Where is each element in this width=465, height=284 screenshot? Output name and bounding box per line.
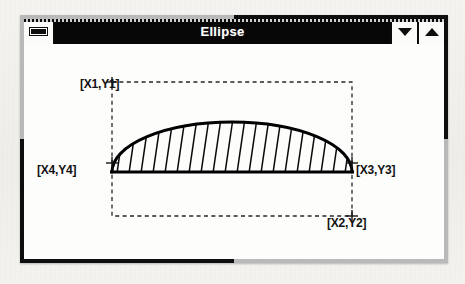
ellipse-window: Ellipse: [20, 15, 448, 263]
bounding-box-dashed: [112, 82, 352, 216]
triangle-up-icon: [425, 28, 439, 36]
point-label-x3y3: [X3,Y3]: [356, 163, 395, 177]
client-area: [X1,Y1] [X2,Y2] [X3,Y3] [X4,Y4]: [24, 44, 444, 259]
minimize-bar-icon: [29, 27, 48, 36]
title-bar-buttons: [390, 19, 444, 44]
ellipse-construction-diagram: [X1,Y1] [X2,Y2] [X3,Y3] [X4,Y4]: [24, 44, 444, 259]
title-bar[interactable]: Ellipse: [24, 19, 444, 44]
triangle-down-icon: [398, 28, 412, 36]
maximize-button[interactable]: [417, 19, 444, 44]
window-inner: Ellipse: [24, 19, 444, 259]
minimize-button[interactable]: [390, 19, 417, 44]
system-menu-button[interactable]: [24, 19, 55, 44]
hatch-fill: [104, 84, 370, 180]
point-label-x4y4: [X4,Y4]: [37, 163, 76, 177]
point-label-x1y1: [X1,Y1]: [80, 77, 119, 91]
window-title: Ellipse: [55, 19, 390, 44]
point-label-x2y2: [X2,Y2]: [327, 216, 366, 230]
